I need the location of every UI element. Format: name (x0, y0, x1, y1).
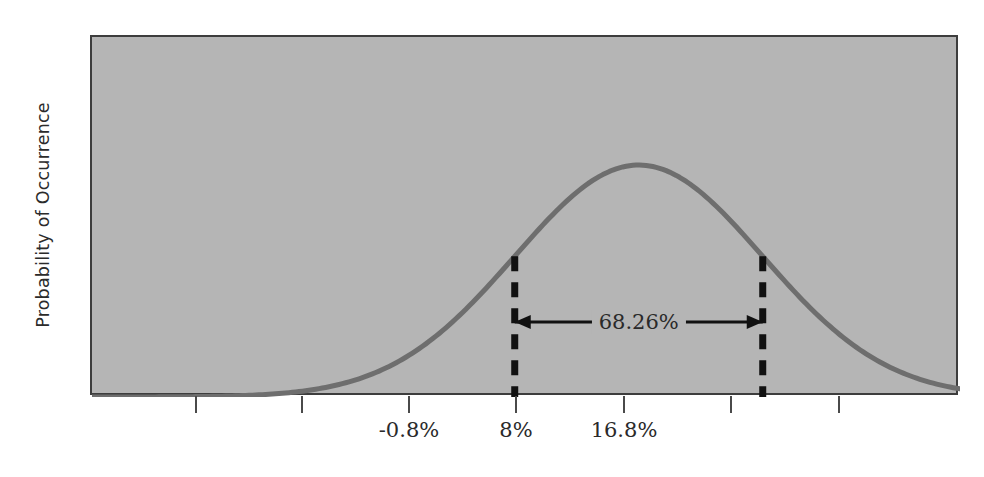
x-axis-tick (301, 396, 303, 413)
x-axis-tick (195, 396, 197, 413)
chart-figure: Probability of Occurrence 68.26% -0.8%8%… (0, 0, 984, 477)
x-axis-tick-label: -0.8% (379, 418, 439, 442)
distribution-curve-svg (92, 37, 960, 397)
sigma-span-label: 68.26% (592, 310, 686, 334)
y-axis-title-container: Probability of Occurrence (0, 0, 86, 430)
x-axis-tick (623, 396, 625, 413)
x-axis-tick (730, 396, 732, 413)
x-axis-tick (515, 396, 517, 413)
bell-curve-path (92, 165, 960, 397)
y-axis-title: Probability of Occurrence (33, 102, 53, 328)
x-axis-tick-label: 8% (499, 418, 532, 442)
x-axis-tick-label: 16.8% (591, 418, 658, 442)
x-axis-tick (838, 396, 840, 413)
x-axis-tick (408, 396, 410, 413)
plot-area: 68.26% (90, 35, 958, 395)
